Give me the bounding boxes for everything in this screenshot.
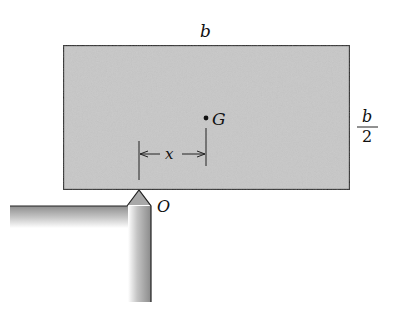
height-denominator: 2 xyxy=(362,127,372,146)
width-label: b xyxy=(200,21,211,41)
knife-edge xyxy=(128,190,151,205)
height-numerator: b xyxy=(362,107,372,126)
diagram-canvas: G x b b 2 O xyxy=(0,0,399,315)
height-label: b 2 xyxy=(357,107,378,146)
center-of-mass-dot xyxy=(204,116,209,121)
support-platform xyxy=(10,206,140,228)
knife-edge-support xyxy=(10,190,151,302)
support-post xyxy=(128,206,151,302)
support-point-label: O xyxy=(157,197,170,216)
offset-label: x xyxy=(165,145,174,163)
center-of-mass-label: G xyxy=(212,109,226,129)
